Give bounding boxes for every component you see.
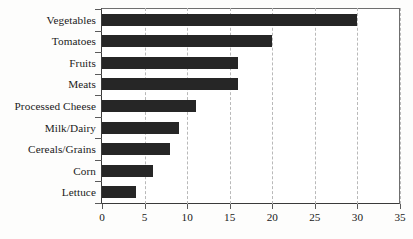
y-axis-tick	[95, 95, 102, 96]
bar-row	[102, 181, 400, 203]
y-axis-label-row: Fruits	[0, 52, 96, 74]
gridline-35	[400, 8, 401, 204]
y-axis-label: Fruits	[69, 57, 96, 69]
y-axis-tick	[95, 117, 102, 118]
x-axis-tick-0	[102, 204, 103, 209]
y-axis-label: Tomatoes	[52, 35, 96, 47]
y-axis-label: Meats	[68, 78, 96, 90]
x-axis-tick-labels: 05101520253035	[101, 211, 400, 231]
bar	[102, 122, 179, 134]
y-axis-label: Corn	[73, 165, 96, 177]
y-axis-category-labels: VegetablesTomatoesFruitsMeatsProcessed C…	[0, 9, 96, 203]
y-axis-label: Lettuce	[62, 186, 96, 198]
x-axis-tick-30	[357, 204, 358, 209]
x-axis-tick-10	[187, 204, 188, 209]
y-axis-tick	[95, 181, 102, 182]
y-axis-tick	[95, 52, 102, 53]
bar	[102, 143, 170, 155]
x-axis-tick-label: 0	[99, 211, 105, 223]
x-axis-tick-label: 25	[309, 211, 320, 223]
x-axis-tick-label: 10	[182, 211, 193, 223]
y-axis-label-row: Vegetables	[0, 9, 96, 31]
bar	[102, 14, 357, 26]
bar	[102, 57, 238, 69]
bar-row	[102, 74, 400, 96]
x-axis-tick-15	[230, 204, 231, 209]
y-axis-label-row: Corn	[0, 160, 96, 182]
x-axis-tick-label: 5	[142, 211, 148, 223]
x-axis-tick-label: 35	[394, 211, 405, 223]
y-axis-label: Cereals/Grains	[28, 143, 96, 155]
y-axis-label-row: Lettuce	[0, 181, 96, 203]
y-axis-label-row: Processed Cheese	[0, 95, 96, 117]
x-axis-tick-5	[145, 204, 146, 209]
x-axis-tick-35	[400, 204, 401, 209]
bar-row	[102, 31, 400, 53]
x-axis-ticks	[101, 204, 400, 210]
y-axis-label: Processed Cheese	[15, 100, 96, 112]
bar-row	[102, 160, 400, 182]
y-axis-label: Vegetables	[47, 14, 96, 26]
y-axis-tick	[95, 138, 102, 139]
y-axis-label-row: Meats	[0, 74, 96, 96]
bar-chart: VegetablesTomatoesFruitsMeatsProcessed C…	[0, 0, 413, 239]
bar-row	[102, 138, 400, 160]
y-axis-tick	[95, 9, 102, 10]
bar-row	[102, 9, 400, 31]
bar-row	[102, 117, 400, 139]
bar	[102, 165, 153, 177]
y-axis-label-row: Tomatoes	[0, 31, 96, 53]
x-axis-tick-label: 15	[224, 211, 235, 223]
y-axis-tick	[95, 31, 102, 32]
y-axis-label-row: Cereals/Grains	[0, 138, 96, 160]
bar-row	[102, 95, 400, 117]
bar-row	[102, 52, 400, 74]
y-axis-label-row: Milk/Dairy	[0, 117, 96, 139]
x-axis-tick-25	[315, 204, 316, 209]
bar	[102, 35, 272, 47]
y-axis-tick	[95, 74, 102, 75]
y-axis-tick	[95, 160, 102, 161]
y-axis-ticks	[95, 9, 102, 203]
bar	[102, 100, 196, 112]
bars-container	[102, 9, 400, 203]
bar	[102, 186, 136, 198]
bar	[102, 78, 238, 90]
y-axis-label: Milk/Dairy	[45, 122, 96, 134]
x-axis-tick-label: 20	[267, 211, 278, 223]
x-axis-tick-20	[272, 204, 273, 209]
x-axis-tick-label: 30	[352, 211, 363, 223]
